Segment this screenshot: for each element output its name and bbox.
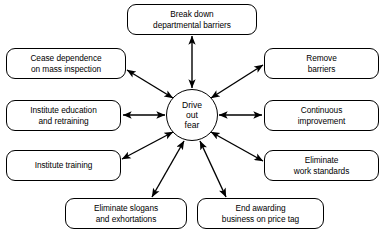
edge-remove-barriers [211,65,263,98]
center-node-label: Drive out fear [179,100,205,130]
node-remove-barriers[interactable]: Remove barriers [264,48,379,79]
node-label: Cease dependence on mass inspection [27,53,104,73]
edge-end-awarding-business-on-price-tag [200,141,226,197]
edge-cease-dependence-on-mass-inspection [127,70,173,98]
node-cease-dependence-on-mass-inspection[interactable]: Cease dependence on mass inspection [6,48,126,79]
node-break-down-departmental-barriers[interactable]: Break down departmental barriers [127,4,257,35]
node-institute-training[interactable]: Institute training [6,150,121,181]
node-label: Institute education and retraining [27,105,99,125]
edge-eliminate-work-standards [211,132,263,161]
node-label: End awarding business on price tag [219,203,302,223]
node-eliminate-work-standards[interactable]: Eliminate work standards [264,150,379,181]
node-eliminate-slogans-and-exhortations[interactable]: Eliminate slogans and exhortations [65,198,187,229]
edge-institute-training [122,132,173,159]
node-label: Continuous improvement [295,105,348,125]
node-continuous-improvement[interactable]: Continuous improvement [264,100,379,131]
edge-eliminate-slogans-and-exhortations [152,141,184,197]
node-label: Eliminate work standards [291,155,353,175]
node-label: Break down departmental barriers [150,9,234,29]
node-label: Institute training [32,160,96,170]
diagram-canvas: Drive out fear Break down departmental b… [0,0,383,234]
node-label: Remove barriers [303,53,340,73]
node-end-awarding-business-on-price-tag[interactable]: End awarding business on price tag [197,198,324,229]
center-node-drive-out-fear[interactable]: Drive out fear [166,89,218,141]
node-label: Eliminate slogans and exhortations [91,203,161,223]
node-institute-education-and-retraining[interactable]: Institute education and retraining [6,100,121,131]
